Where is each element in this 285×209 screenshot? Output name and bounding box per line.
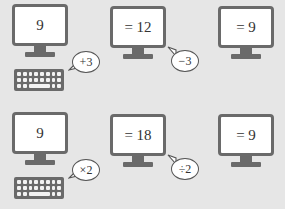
- monitor-start: 9: [12, 112, 68, 165]
- operation-label: +3: [80, 55, 93, 70]
- start-value: 9: [36, 17, 44, 34]
- monitor-screen: = 12: [110, 6, 166, 48]
- operation-label: ×2: [80, 163, 93, 178]
- operation-bubble-1: ×2: [72, 159, 100, 181]
- row-1: 9 +3 = 12 −3 = 9: [0, 4, 285, 108]
- monitor-middle: = 18: [110, 114, 166, 167]
- operation-label: ÷2: [179, 162, 192, 177]
- monitor-start: 9: [12, 4, 68, 57]
- monitor-screen: = 9: [218, 6, 274, 48]
- monitor-base: [25, 160, 55, 165]
- result-value: = 9: [236, 127, 256, 144]
- keyboard-icon: [14, 177, 64, 199]
- operation-bubble-1: +3: [72, 51, 100, 73]
- monitor-base: [231, 54, 261, 59]
- monitor-result: = 9: [218, 114, 274, 167]
- monitor-screen: = 9: [218, 114, 274, 156]
- middle-value: = 18: [124, 127, 151, 144]
- keyboard-icon: [14, 69, 64, 91]
- monitor-screen: 9: [12, 112, 68, 154]
- middle-value: = 12: [124, 19, 151, 36]
- monitor-base: [123, 54, 153, 59]
- monitor-screen: 9: [12, 4, 68, 46]
- operation-bubble-2: ÷2: [171, 158, 199, 180]
- monitor-base: [123, 162, 153, 167]
- monitor-base: [231, 162, 261, 167]
- operation-label: −3: [179, 54, 192, 69]
- operation-bubble-2: −3: [171, 50, 199, 72]
- row-2: 9 ×2 = 18 ÷2 = 9: [0, 112, 285, 209]
- monitor-result: = 9: [218, 6, 274, 59]
- start-value: 9: [36, 125, 44, 142]
- monitor-base: [25, 52, 55, 57]
- monitor-screen: = 18: [110, 114, 166, 156]
- monitor-middle: = 12: [110, 6, 166, 59]
- result-value: = 9: [236, 19, 256, 36]
